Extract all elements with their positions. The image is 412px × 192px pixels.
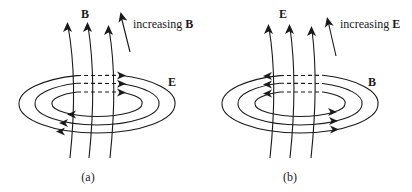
panel-b: E increasing E B (b) [222,7,400,184]
loop-field-label-b: B [368,75,376,89]
increasing-arrow [116,11,130,52]
loop-field-lines [19,72,175,136]
axial-field-lines [63,22,114,158]
induction-figure: B increasing B E (a) [0,0,412,192]
caption-b: (b) [283,170,297,184]
caption-a: (a) [81,170,94,184]
axial-field-label-a: B [81,7,89,21]
loop-field-lines [222,72,378,134]
increasing-label-a: increasing B [133,17,193,31]
panel-a: B increasing B E (a) [19,7,193,184]
axial-field-lines [264,24,316,158]
increasing-prefix-a: increasing [133,17,185,31]
loop-field-label-a: E [168,75,176,89]
increasing-prefix-b: increasing [340,17,392,31]
increasing-symbol-b: E [392,17,400,31]
increasing-label-b: increasing E [340,17,400,31]
axial-field-label-b: E [279,7,287,21]
increasing-symbol-a: B [185,17,193,31]
increasing-arrow [323,16,336,56]
